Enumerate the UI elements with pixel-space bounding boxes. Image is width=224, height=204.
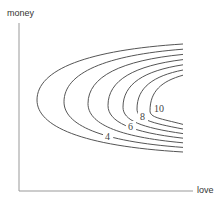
contour-label-4: 4 <box>105 131 110 142</box>
contour-label-8: 8 <box>140 111 145 122</box>
contour-label-10: 10 <box>154 103 164 114</box>
contour-curve-10 <box>150 75 183 124</box>
contour-plot: 46810 <box>0 0 224 204</box>
contour-label-6: 6 <box>128 121 133 132</box>
